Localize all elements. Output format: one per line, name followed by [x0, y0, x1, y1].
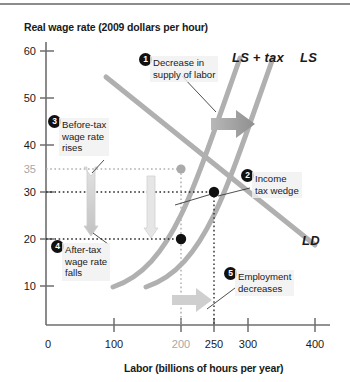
callout-line: supply of labor [153, 69, 215, 81]
callout-line: wage rate [62, 131, 106, 143]
callout-line: decreases [238, 283, 291, 295]
labor-market-tax-figure: Real wage rate (2009 dollars per hour) L… [0, 0, 350, 382]
leader-line-3 [92, 160, 104, 173]
supply-shift-arrow [211, 110, 255, 138]
callout-line: After-tax [65, 244, 107, 256]
leader-line-5 [207, 288, 235, 309]
top-divider-rule [0, 3, 350, 5]
x-tick-label-250: 250 [199, 338, 229, 350]
callout-employment-decreases: Employment decreases [235, 270, 294, 296]
leader-line-wedge [175, 193, 215, 205]
ls-plus-tax-curve [113, 58, 240, 287]
callout-line: wage rate [65, 256, 107, 268]
curve-label-ls-plus-tax: LS + tax [232, 50, 284, 65]
callout-line: Employment [238, 271, 291, 283]
y-tick-label: 50 [14, 92, 36, 104]
before-tax-wage-point [176, 164, 185, 173]
x-tick-label: 400 [300, 338, 330, 350]
leader-line-2 [218, 188, 250, 196]
callout-line: tax wedge [255, 185, 299, 197]
y-tick-label: 10 [14, 280, 36, 292]
x-axis-title: Labor (billions of hours per year) [124, 362, 283, 374]
curve-label-ls: LS [300, 50, 317, 65]
callout-line: falls [65, 267, 107, 279]
y-tick-label-35: 35 [14, 163, 36, 175]
x-tick-label: 0 [33, 338, 63, 350]
callout-line: Income [255, 173, 299, 185]
callout-income-tax-wedge: Income tax wedge [252, 172, 302, 198]
curve-label-ld: LD [302, 233, 320, 248]
callout-before-tax-wage-rate-rises: Before-tax wage rate rises [59, 118, 109, 156]
ld-curve [106, 77, 315, 245]
wage-change-double-arrow [84, 167, 98, 236]
y-tick-label: 20 [14, 233, 36, 245]
x-tick-label: 100 [99, 338, 129, 350]
tax-wedge-up-arrow [144, 176, 158, 238]
callout-line: Before-tax [62, 119, 106, 131]
y-tick-label: 40 [14, 139, 36, 151]
employment-decrease-arrow [172, 288, 212, 312]
y-tick-label: 60 [14, 45, 36, 57]
callout-line: Decrease in [153, 57, 215, 69]
x-axis-ticks [114, 318, 315, 332]
y-tick-label: 30 [14, 186, 36, 198]
callout-line: rises [62, 142, 106, 154]
x-tick-label: 300 [233, 338, 263, 350]
callout-after-tax-wage-rate-falls: After-tax wage rate falls [62, 243, 110, 281]
callout-decrease-in-supply-of-labor: Decrease in supply of labor [150, 56, 218, 82]
no-tax-equilibrium-point [209, 187, 219, 197]
x-tick-label-200: 200 [166, 338, 196, 350]
y-axis-title: Real wage rate (2009 dollars per hour) [24, 21, 208, 33]
after-tax-wage-point [176, 234, 186, 244]
